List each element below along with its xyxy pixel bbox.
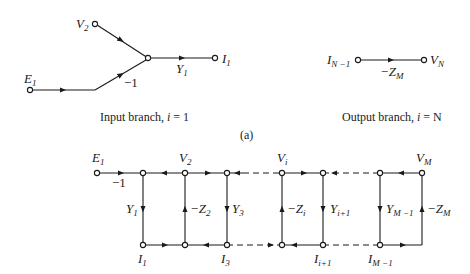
figure-label: (a) bbox=[240, 128, 253, 142]
node-vi bbox=[279, 170, 284, 175]
node-vn bbox=[421, 57, 426, 62]
node-e1 bbox=[94, 170, 99, 175]
node-i-n-1 bbox=[355, 57, 360, 62]
label-ladder-minus-one: −1 bbox=[112, 175, 126, 190]
node-bottom-2 bbox=[182, 242, 187, 247]
node-top-3 bbox=[224, 170, 229, 175]
label-minus-one: −1 bbox=[124, 75, 138, 90]
label-ladder-im1: IM −1 bbox=[367, 251, 393, 268]
label-v2: V2 bbox=[76, 16, 89, 33]
label-ladder-v2: V2 bbox=[179, 150, 192, 167]
node-top-i1 bbox=[320, 170, 325, 175]
label-ladder-ym1: YM −1 bbox=[386, 201, 414, 218]
ladder-graph bbox=[94, 170, 424, 247]
node-junction bbox=[145, 55, 150, 60]
arrow-icon bbox=[120, 40, 121, 41]
node-bottom-i bbox=[279, 242, 284, 247]
node-i1 bbox=[140, 242, 145, 247]
node-ii1 bbox=[320, 242, 325, 247]
node-im1 bbox=[377, 242, 382, 247]
label-ladder-yi1: Yi+1 bbox=[330, 201, 350, 218]
node-vm bbox=[419, 170, 424, 175]
label-ladder-vm: VM bbox=[416, 150, 432, 167]
caption-output-branch: Output branch, i = N bbox=[342, 110, 442, 124]
label-ladder-i3: I3 bbox=[220, 251, 230, 268]
arrow-icon bbox=[120, 75, 121, 76]
label-i-n-1: IN −1 bbox=[326, 52, 350, 69]
label-ladder-i1: I1 bbox=[137, 251, 147, 268]
node-i3 bbox=[224, 242, 229, 247]
output-branch bbox=[355, 57, 426, 62]
label-ladder-e1: E1 bbox=[91, 150, 104, 167]
label-ladder-zm: −ZM bbox=[427, 201, 451, 218]
label-ladder-y3: Y3 bbox=[232, 201, 244, 218]
caption-input-branch: Input branch, i = 1 bbox=[100, 110, 189, 124]
label-ladder-z2: −Z2 bbox=[190, 201, 211, 218]
node-v2 bbox=[92, 21, 97, 26]
edge-v2-junction bbox=[97, 25, 148, 58]
label-vn: VN bbox=[430, 52, 445, 69]
node-v2 bbox=[182, 170, 187, 175]
node-i1 bbox=[212, 55, 217, 60]
signal-flow-graph: V2 E1 −1 Y1 I1 Input branch, i = 1 IN −1… bbox=[0, 0, 470, 274]
node-top-1 bbox=[140, 170, 145, 175]
label-e1: E1 bbox=[23, 71, 36, 88]
node-top-m1 bbox=[377, 170, 382, 175]
label-i1: I1 bbox=[221, 51, 231, 68]
label-ladder-vi: Vi bbox=[277, 150, 288, 167]
node-e1 bbox=[27, 87, 32, 92]
label-minus-zm: −ZM bbox=[380, 64, 404, 81]
label-ladder-zi: −Zi bbox=[287, 201, 306, 218]
input-branch bbox=[27, 21, 217, 92]
label-y1: Y1 bbox=[176, 61, 188, 78]
label-ladder-ii1: Ii+1 bbox=[313, 251, 331, 268]
label-ladder-y1: Y1 bbox=[126, 201, 138, 218]
